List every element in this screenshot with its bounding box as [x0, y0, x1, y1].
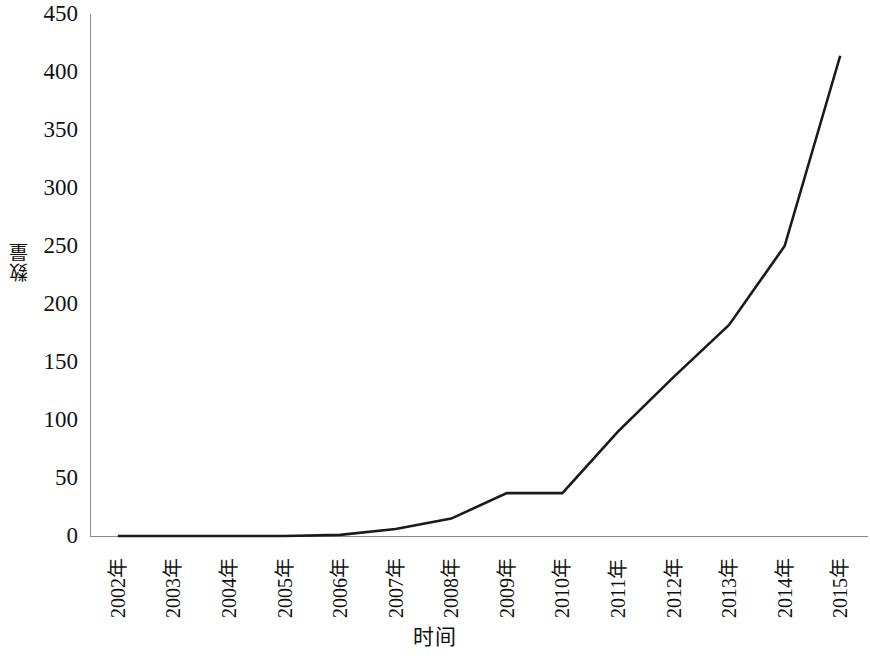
x-axis-tick-labels: 2002年2003年2004年2005年2006年2007年2008年2009年… [0, 540, 870, 620]
series-line-quantity [90, 14, 868, 536]
x-axis-tick-label: 2015年 [830, 540, 870, 620]
y-axis-tick-label: 150 [44, 350, 79, 373]
y-axis-tick-label: 400 [44, 60, 79, 83]
y-axis-tick-label: 200 [44, 292, 79, 315]
y-axis-tick-label: 300 [44, 176, 79, 199]
y-axis-tick-label: 50 [55, 466, 78, 489]
y-axis-tick-label: 250 [44, 234, 79, 257]
x-axis-title: 时间 [0, 620, 870, 650]
y-axis-tick-label: 450 [44, 2, 79, 25]
y-axis-tick-label: 350 [44, 118, 79, 141]
line-chart: 数量 050100150200250300350400450 2002年2003… [0, 0, 870, 658]
y-axis-tick-label: 100 [44, 408, 79, 431]
plot-area [90, 14, 868, 536]
